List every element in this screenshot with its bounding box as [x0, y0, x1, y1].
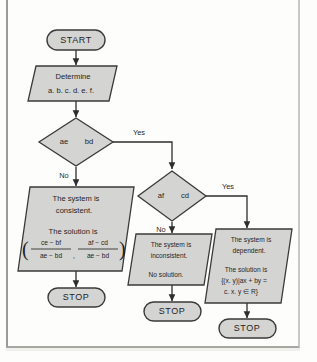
consistent-line2: consistent. — [56, 206, 92, 215]
decision2-diamond-shape — [138, 171, 206, 221]
node-determine[interactable]: Determine a. b. c. d. e. f. — [28, 66, 117, 101]
consistent-line1: The system is — [53, 194, 100, 203]
decision1-left-expression: ae — [60, 137, 68, 146]
dependent-line5: c. x. y ∈ R} — [224, 288, 259, 296]
node-start[interactable]: START — [47, 30, 105, 50]
dependent-line3: The solution is — [225, 266, 268, 273]
edge-label-decision1-no: No — [59, 171, 68, 180]
solution-comma: , — [73, 252, 75, 259]
determine-line2: a. b. c. d. e. f. — [48, 86, 94, 95]
inconsistent-line1: The system is — [151, 241, 192, 249]
solution-paren-open: ( — [22, 238, 29, 261]
dependent-line1: The system is — [231, 236, 272, 244]
decision1-diamond-shape — [39, 118, 113, 166]
node-stop-middle[interactable]: STOP — [144, 302, 201, 321]
edge-label-decision1-yes: Yes — [133, 128, 145, 137]
decision2-left-expression: af — [158, 191, 165, 200]
determine-line1: Determine — [55, 72, 90, 81]
node-dependent[interactable]: The system is dependent. The solution is… — [205, 229, 292, 303]
decision1-right-expression: bd — [85, 137, 93, 146]
start-label: START — [60, 35, 92, 45]
edge-decision2-dependent-yes — [206, 196, 247, 228]
dependent-line4: {(x. y)|ax + by = — [221, 277, 267, 285]
dependent-line2: dependent. — [232, 247, 265, 255]
edge-decision1-decision2-yes — [113, 142, 172, 169]
diagram-page: Yes No Yes No START Determine a. b. c. d… — [0, 0, 317, 362]
node-consistent[interactable]: The system is consistent. The solution i… — [18, 187, 134, 271]
inconsistent-line2: inconsistent. — [151, 252, 188, 259]
stop-middle-label: STOP — [159, 306, 186, 316]
solution-fraction1-denominator: ae − bd — [40, 252, 63, 259]
edge-label-decision2-no: No — [156, 225, 165, 234]
node-decision1[interactable]: ae bd — [39, 118, 113, 166]
solution-paren-close: ) — [119, 238, 126, 261]
edge-label-decision2-yes: Yes — [222, 182, 234, 191]
solution-fraction2-numerator: af − cd — [88, 239, 108, 246]
consistent-line3: The solution is — [49, 227, 98, 236]
solution-fraction2-denominator: ae − bd — [87, 252, 110, 259]
inconsistent-line3: No solution. — [149, 271, 184, 278]
stop-left-label: STOP — [63, 292, 90, 302]
decision2-right-expression: cd — [181, 191, 189, 200]
solution-fraction1-numerator: ce − bf — [41, 239, 61, 246]
node-stop-left[interactable]: STOP — [48, 288, 105, 307]
node-decision2[interactable]: af cd — [138, 171, 206, 221]
node-inconsistent[interactable]: The system is inconsistent. No solution. — [128, 234, 212, 285]
stop-right-label: STOP — [234, 323, 261, 333]
node-stop-right[interactable]: STOP — [219, 319, 276, 338]
flowchart-canvas: Yes No Yes No START Determine a. b. c. d… — [0, 0, 317, 362]
